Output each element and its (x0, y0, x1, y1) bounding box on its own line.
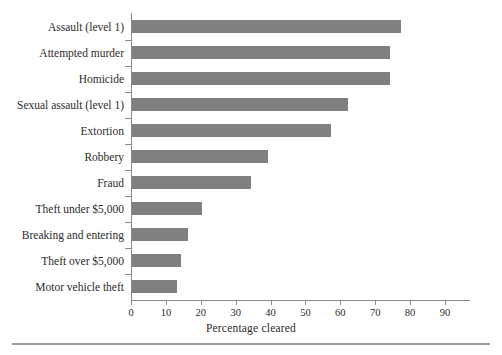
category-label: Theft over $5,000 (0, 248, 124, 274)
category-label: Breaking and entering (0, 222, 124, 248)
footer-divider-rule (12, 343, 490, 345)
category-label: Theft under $5,000 (0, 196, 124, 222)
x-axis-tick (445, 300, 446, 305)
x-axis-tick-label: 20 (196, 307, 207, 318)
bar (132, 98, 348, 111)
bar (132, 20, 401, 33)
category-label: Motor vehicle theft (0, 274, 124, 300)
x-axis-tick (340, 300, 341, 305)
x-axis-tick (410, 300, 411, 305)
x-axis-tick-label: 40 (265, 307, 276, 318)
category-label: Attempted murder (0, 40, 124, 66)
x-axis-title: Percentage cleared (0, 322, 502, 334)
category-label: Homicide (0, 66, 124, 92)
x-axis-tick-label: 50 (300, 307, 311, 318)
bar (132, 72, 390, 85)
x-axis-tick-label: 70 (370, 307, 381, 318)
y-axis-line (131, 13, 132, 301)
x-axis-tick-label: 90 (440, 307, 451, 318)
x-axis-tick (305, 300, 306, 305)
x-axis-tick (131, 300, 132, 305)
bar (132, 150, 268, 163)
x-axis-tick-label: 80 (405, 307, 416, 318)
x-axis-tick-label: 30 (230, 307, 241, 318)
category-label: Assault (level 1) (0, 14, 124, 40)
x-axis-tick (166, 300, 167, 305)
x-axis-line (131, 300, 470, 301)
x-axis-tick-label: 0 (128, 307, 133, 318)
bar (132, 228, 188, 241)
category-label: Sexual assault (level 1) (0, 92, 124, 118)
bar (132, 202, 202, 215)
bar (132, 280, 177, 293)
bar (132, 254, 181, 267)
x-axis-tick (375, 300, 376, 305)
x-axis-tick (201, 300, 202, 305)
x-axis-tick (236, 300, 237, 305)
bar (132, 176, 251, 189)
x-axis-tick (271, 300, 272, 305)
category-label: Extortion (0, 118, 124, 144)
bar (132, 46, 390, 59)
category-label: Fraud (0, 170, 124, 196)
bar-chart: Assault (level 1)Attempted murderHomicid… (0, 0, 502, 355)
bar (132, 124, 331, 137)
category-label: Robbery (0, 144, 124, 170)
x-axis-tick-label: 60 (335, 307, 346, 318)
x-axis-tick-label: 10 (161, 307, 172, 318)
